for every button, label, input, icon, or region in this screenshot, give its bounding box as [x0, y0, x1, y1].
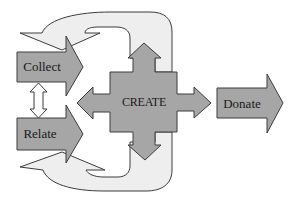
bidirectional-arrow: [30, 83, 47, 118]
relate-label: Relate: [23, 126, 56, 142]
donate-label: Donate: [223, 96, 261, 112]
collect-label: Collect: [23, 59, 61, 75]
create-label: CREATE: [122, 95, 166, 110]
